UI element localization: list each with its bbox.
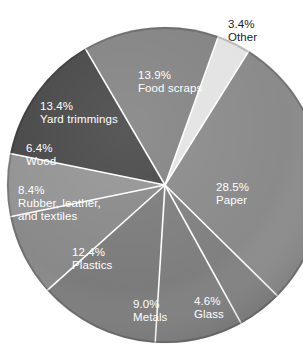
slice-name-yard-trimmings: Yard trimmings xyxy=(40,113,118,126)
slice-name-food-scraps: Food scraps xyxy=(138,82,202,95)
slice-percent-metals: 9.0% xyxy=(133,298,167,311)
slice-label-wood: 6.4% Wood xyxy=(26,142,56,168)
slice-label-paper: 28.5% Paper xyxy=(216,181,249,207)
slice-percent-glass: 4.6% xyxy=(194,295,224,308)
slice-percent-other: 3.4% xyxy=(228,18,257,31)
slice-label-plastics: 12.4% Plastics xyxy=(72,246,112,272)
slice-name-plastics: Plastics xyxy=(72,259,112,272)
slice-name-other: Other xyxy=(228,31,257,44)
slice-name-glass: Glass xyxy=(194,308,224,321)
slice-percent-food-scraps: 13.9% xyxy=(138,69,202,82)
slice-name-paper: Paper xyxy=(216,194,249,207)
slice-label-rubber-leather-textiles: 8.4% Rubber, leather, and textiles xyxy=(18,184,101,224)
pie-chart: 28.5% Paper 4.6% Glass 9.0% Metals 12.4%… xyxy=(0,0,303,351)
slice-percent-rubber-leather-textiles: 8.4% xyxy=(18,184,101,197)
slice-percent-plastics: 12.4% xyxy=(72,246,112,259)
slice-name-wood: Wood xyxy=(26,155,56,168)
slice-label-metals: 9.0% Metals xyxy=(133,298,167,324)
slice-name-metals: Metals xyxy=(133,311,167,324)
slice-percent-wood: 6.4% xyxy=(26,142,56,155)
slice-label-food-scraps: 13.9% Food scraps xyxy=(138,69,202,95)
slice-name-rubber-leather-textiles-line2: and textiles xyxy=(18,210,101,223)
slice-percent-paper: 28.5% xyxy=(216,181,249,194)
slice-percent-yard-trimmings: 13.4% xyxy=(40,100,118,113)
slice-label-other: 3.4% Other xyxy=(228,18,257,44)
slice-name-rubber-leather-textiles: Rubber, leather, xyxy=(18,197,101,210)
slice-label-glass: 4.6% Glass xyxy=(194,295,224,321)
slice-label-yard-trimmings: 13.4% Yard trimmings xyxy=(40,100,118,126)
